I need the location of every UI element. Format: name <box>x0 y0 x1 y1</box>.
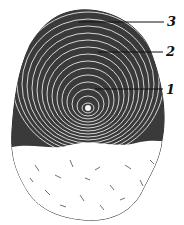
label-3: 3 <box>167 15 176 28</box>
label-2: 2 <box>166 45 175 58</box>
fish-scale-drawing <box>0 0 184 225</box>
label-1: 1 <box>166 83 175 96</box>
fish-scale-figure: 3 2 1 <box>0 0 184 225</box>
